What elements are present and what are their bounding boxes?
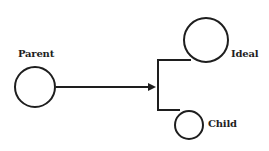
parent-label: Parent bbox=[18, 48, 54, 59]
parent-node-circle bbox=[15, 67, 55, 107]
diagram-canvas: Parent Ideal Child bbox=[0, 0, 269, 151]
ideal-label: Ideal bbox=[231, 48, 258, 59]
arrowhead-icon bbox=[148, 83, 156, 91]
ideal-node-circle bbox=[184, 18, 228, 62]
child-label: Child bbox=[208, 118, 237, 129]
child-node-circle bbox=[175, 111, 203, 139]
